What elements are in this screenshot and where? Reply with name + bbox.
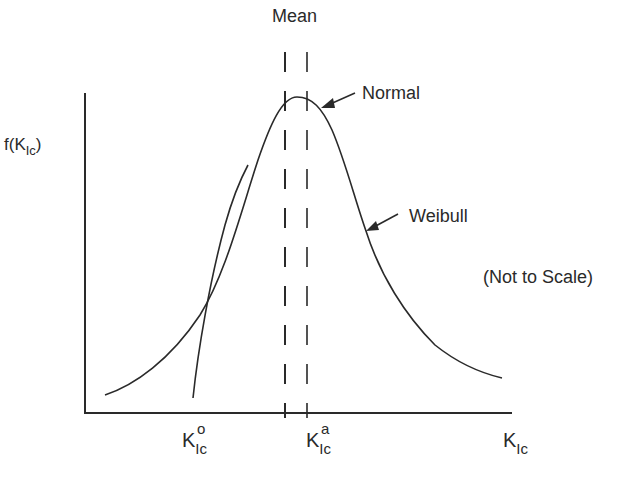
weibull-arrowhead-icon bbox=[366, 221, 379, 231]
y-axis-label-suffix: ) bbox=[36, 135, 42, 154]
weibull-curve bbox=[193, 165, 248, 398]
not-to-scale-note: (Not to Scale) bbox=[483, 268, 593, 286]
tick-label-k-ic-a-superscript: a bbox=[321, 421, 329, 436]
weibull-annotation: Weibull bbox=[409, 207, 468, 225]
tick-label-k-ic-a: KaIc bbox=[306, 430, 331, 450]
tick-label-k-ic-o-base: K bbox=[182, 429, 195, 451]
tick-label-k-ic-a-subscript: Ic bbox=[319, 440, 331, 457]
x-axis-label-subscript: Ic bbox=[516, 440, 528, 457]
mean-label: Mean bbox=[272, 7, 317, 25]
tick-label-k-ic-o-superscript: o bbox=[197, 421, 205, 436]
tick-label-k-ic-a-base: K bbox=[306, 429, 319, 451]
distribution-diagram: f(KIc) Mean Normal Weibull (Not to Scale… bbox=[0, 0, 641, 477]
normal-annotation: Normal bbox=[362, 84, 420, 102]
y-axis-label: f(KIc) bbox=[4, 136, 42, 153]
y-axis-label-prefix: f(K bbox=[4, 135, 26, 154]
tick-label-k-ic-o: KoIc bbox=[182, 430, 207, 450]
x-axis-label-base: K bbox=[503, 429, 516, 451]
diagram-canvas bbox=[0, 0, 641, 477]
normal-arrowhead-icon bbox=[321, 98, 335, 108]
y-axis-label-subscript: Ic bbox=[26, 143, 36, 158]
x-axis-label: KIc bbox=[503, 430, 528, 450]
tick-label-k-ic-o-subscript: Ic bbox=[195, 440, 207, 457]
normal-curve bbox=[105, 97, 502, 395]
